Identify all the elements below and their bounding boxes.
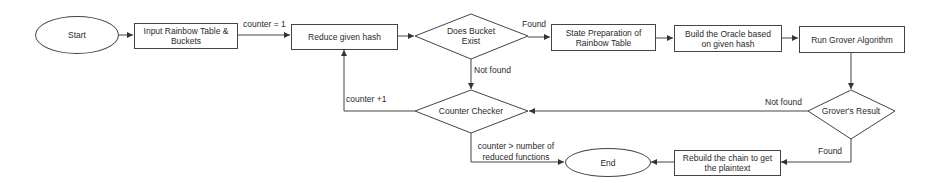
edge-label-bucket-not-found: Not found <box>474 65 511 75</box>
counter-checker-label-box: Counter Checker <box>431 104 511 118</box>
reduce-label: Reduce given hash <box>308 32 381 42</box>
input-rainbow-table-node: Input Rainbow Table & Buckets <box>134 23 238 49</box>
grovers-result-label: Grover's Result <box>822 106 880 116</box>
edge-label-grover-found: Found <box>818 146 842 156</box>
oracle-label: Build the Oracle based on given hash <box>685 29 771 49</box>
grovers-result-label-box: Grover's Result <box>812 104 890 118</box>
start-node: Start <box>35 16 119 54</box>
edge-label-counter-increment: counter +1 <box>346 94 386 104</box>
reduce-hash-node: Reduce given hash <box>291 24 398 50</box>
end-label: End <box>600 158 615 168</box>
state-preparation-node: State Preparation of Rainbow Table <box>551 24 656 51</box>
start-label: Start <box>68 30 86 40</box>
input-label: Input Rainbow Table & Buckets <box>143 26 229 46</box>
edge-label-counter-exceeded: counter > number of reduced functions <box>475 141 557 163</box>
rebuild-chain-node: Rebuild the chain to get the plaintext <box>674 150 781 176</box>
build-oracle-node: Build the Oracle based on given hash <box>674 25 782 52</box>
run-grover-node: Run Grover Algorithm <box>799 26 905 53</box>
bucket-exist-label: Does Bucket Exist <box>440 26 502 46</box>
rebuild-label: Rebuild the chain to get the plaintext <box>677 153 778 173</box>
edge-label-grover-not-found: Not found <box>765 97 802 107</box>
end-node: End <box>565 148 651 177</box>
bucket-exist-label-box: Does Bucket Exist <box>440 22 502 50</box>
edge-label-counter-init: counter = 1 <box>243 19 286 29</box>
grover-label: Run Grover Algorithm <box>811 35 893 45</box>
counter-checker-label: Counter Checker <box>439 106 503 116</box>
state-prep-label: State Preparation of Rainbow Table <box>564 28 643 48</box>
edge-label-bucket-found: Found <box>522 19 546 29</box>
